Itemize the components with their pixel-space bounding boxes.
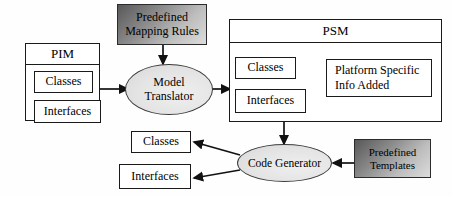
psm-title: PSM (230, 20, 441, 43)
predefined-templates-box: Predefined Templates (354, 139, 431, 178)
platform-specific-info-line2: Info Added (335, 78, 431, 93)
model-translator-ellipse: Model Translator (125, 64, 213, 115)
pim-interfaces-box: Interfaces (34, 100, 101, 123)
edge-code-generator-to-interfaces (194, 170, 240, 178)
edge-code-generator-to-classes (194, 142, 240, 155)
platform-specific-info-box: Platform Specific Info Added (326, 59, 432, 97)
code-generator-ellipse: Code Generator (237, 144, 332, 182)
psm-classes-box: Classes (235, 57, 296, 79)
pim-classes-box: Classes (34, 71, 93, 93)
model-translator-line2: Translator (145, 90, 194, 103)
output-interfaces-box: Interfaces (119, 164, 191, 189)
code-generator-label: Code Generator (248, 157, 321, 170)
predefined-templates-line1: Predefined (369, 146, 417, 158)
predefined-templates-line2: Templates (370, 159, 415, 171)
output-classes-box: Classes (131, 131, 191, 153)
psm-interfaces-box: Interfaces (235, 89, 306, 113)
pim-container: PIM Classes Interfaces (25, 43, 100, 121)
predefined-mapping-rules-box: Predefined Mapping Rules (117, 4, 207, 45)
platform-specific-info-line1: Platform Specific (335, 63, 431, 78)
psm-container: PSM Classes Interfaces Platform Specific… (229, 19, 442, 122)
model-translator-line1: Model (153, 76, 184, 89)
predefined-mapping-rules-line1: Predefined (136, 11, 188, 24)
mda-transformation-diagram: PIM Classes Interfaces Predefined Mappin… (0, 0, 452, 197)
predefined-mapping-rules-line2: Mapping Rules (125, 25, 199, 38)
pim-title: PIM (26, 44, 99, 65)
